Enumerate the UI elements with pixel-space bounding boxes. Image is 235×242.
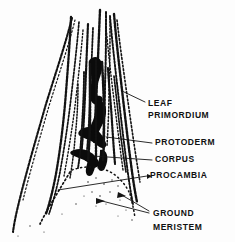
shoot-apex-figure: LEAF PRIMORDIUM PROTODERM CORPUS PROCAMB…: [0, 0, 235, 242]
label-protoderm: PROTODERM: [155, 137, 215, 147]
label-leaf-primordium-line2: PRIMORDIUM: [148, 110, 209, 120]
label-ground-meristem-line2: MERISTEM: [153, 222, 202, 232]
label-leaf-primordium-line1: LEAF: [148, 98, 172, 108]
label-ground-meristem-line1: GROUND: [153, 208, 194, 218]
label-procambia: PROCAMBIA: [150, 170, 207, 180]
shoot-apex-drawing: LEAF PRIMORDIUM PROTODERM CORPUS PROCAMB…: [0, 0, 235, 242]
label-corpus: CORPUS: [155, 154, 195, 164]
figure-background: [0, 0, 235, 242]
